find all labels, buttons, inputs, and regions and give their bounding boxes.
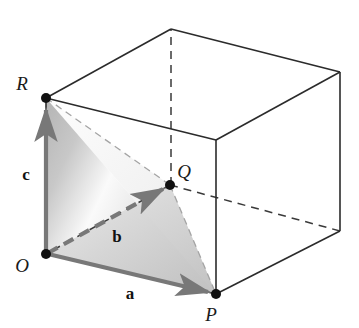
- vertex-dot-Q: [165, 180, 175, 190]
- point-label-Q: Q: [177, 161, 191, 182]
- vertex-dot-R: [41, 93, 51, 103]
- vertex-dot-O: [41, 249, 51, 259]
- shaded-triangles: [46, 98, 216, 294]
- vector-label-a: a: [126, 284, 135, 303]
- hidden-edge-back-bottom: [170, 185, 340, 231]
- point-label-O: O: [15, 255, 29, 276]
- edge-top-right-receding: [216, 72, 340, 140]
- edge-bottom-right-receding: [216, 231, 340, 294]
- vector-label-b: b: [112, 227, 121, 246]
- vertex-dot-P: [211, 289, 221, 299]
- edge-top-back: [171, 29, 340, 72]
- point-label-R: R: [15, 73, 28, 94]
- vector-label-c: c: [22, 165, 30, 184]
- cube-diagram-svg: R O P Q c b a: [0, 0, 359, 328]
- point-label-P: P: [204, 304, 217, 325]
- edge-top-left-receding: [46, 29, 171, 98]
- cube-vector-figure: R O P Q c b a: [0, 0, 359, 328]
